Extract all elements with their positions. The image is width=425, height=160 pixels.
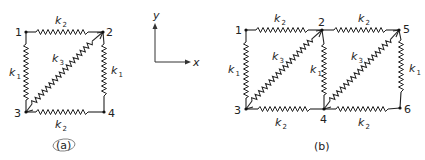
figure-label-b: (b)	[314, 140, 330, 153]
x-axis-label: x	[192, 56, 200, 69]
node-label-b-2: 2	[318, 16, 325, 29]
node-a-4	[102, 110, 105, 113]
spring-a-2-4	[102, 32, 107, 112]
k-label-b-right: k1	[409, 62, 421, 77]
spring-a-3-2	[26, 32, 103, 112]
k-label-b-top-left: k2	[274, 12, 286, 27]
node-b-6	[398, 106, 401, 109]
y-arrow-icon	[153, 23, 158, 29]
spring-b-1-2	[246, 28, 322, 33]
spring-a-1-2	[26, 30, 103, 35]
spring-b-3-4	[246, 107, 324, 112]
spring-b-1-3	[244, 30, 249, 109]
k-label-a-diagonal: k3	[52, 52, 64, 67]
node-label-b-1: 1	[235, 24, 242, 37]
node-a-1	[24, 30, 27, 33]
k-label-a-left: k1	[9, 66, 21, 81]
node-b-1	[244, 28, 247, 31]
x-arrow-icon	[185, 60, 191, 65]
figure-b: 1 2 5 3 4 6 k2 k2 k2 k2 k1 k1 k1 k3 k3 (…	[228, 12, 421, 153]
node-label-a-2: 2	[106, 26, 113, 39]
y-axis-label: y	[152, 9, 160, 22]
spring-a-3-4	[26, 110, 104, 115]
k-label-b-top-right: k2	[358, 12, 370, 27]
k-label-b-middle: k1	[310, 63, 322, 78]
node-label-a-4: 4	[108, 107, 115, 120]
node-b-5	[397, 28, 400, 31]
node-label-a-3: 3	[14, 107, 21, 120]
figure-a: 1 2 3 4 k2 k2 k1 k1 k3 (a)	[9, 14, 123, 152]
node-label-a-1: 1	[15, 26, 22, 39]
k-label-b-bottom-left: k2	[275, 116, 287, 131]
node-b-3	[244, 107, 247, 110]
k-label-a-right: k1	[111, 64, 123, 79]
figure-label-a: (a)	[56, 139, 71, 152]
spring-b-4-5	[324, 30, 399, 109]
spring-b-2-4	[322, 30, 327, 109]
coordinate-axes: y x	[152, 9, 200, 69]
node-label-b-5: 5	[403, 23, 410, 36]
node-label-b-4: 4	[320, 113, 327, 126]
k-label-b-bottom-right: k2	[358, 116, 370, 131]
node-label-b-6: 6	[404, 103, 411, 116]
k-label-a-top: k2	[55, 14, 67, 29]
spring-a-1-3	[24, 32, 29, 112]
k-label-b-left: k1	[228, 63, 240, 78]
node-a-2	[101, 30, 104, 33]
k-label-b-diagonal-left: k3	[272, 50, 284, 65]
node-a-3	[24, 110, 27, 113]
k-label-a-bottom: k2	[55, 118, 67, 133]
spring-b-2-5	[322, 28, 399, 33]
spring-network-diagram: 1 2 3 4 k2 k2 k1 k1 k3 (a) y x	[0, 0, 425, 160]
k-label-b-diagonal-right: k3	[351, 50, 363, 65]
node-label-b-3: 3	[234, 104, 241, 117]
spring-b-5-6	[399, 30, 404, 108]
node-b-4	[322, 107, 325, 110]
spring-b-4-6	[324, 107, 400, 112]
